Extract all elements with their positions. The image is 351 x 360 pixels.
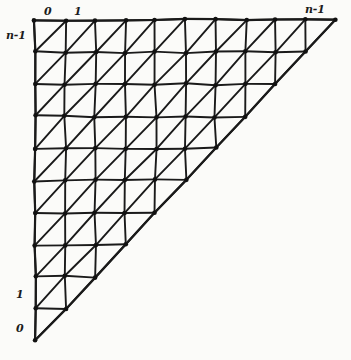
grid-edge [66, 278, 95, 309]
grid-edge [65, 180, 95, 181]
grid-edge [65, 213, 94, 246]
grid-edge [126, 117, 157, 149]
grid-edge [96, 52, 97, 84]
grid-edge [95, 244, 126, 277]
grid-edge [36, 85, 65, 116]
grid-edge [65, 52, 97, 85]
grid-edge [125, 52, 155, 54]
grid-edge [35, 51, 65, 52]
grid-edge [245, 84, 275, 117]
label-left-origin: 0 [16, 323, 23, 334]
grid-vertex [303, 17, 308, 22]
grid-edge [65, 213, 94, 214]
grid-edge [155, 52, 186, 54]
grid-vertex [63, 211, 68, 216]
grid-edge [95, 245, 96, 278]
grid-edge [157, 116, 186, 149]
grid-vertex [64, 18, 69, 23]
grid-edge [65, 245, 96, 276]
grid-edge [96, 213, 125, 245]
grid-edge [155, 180, 187, 213]
grid-edge [155, 19, 185, 52]
grid-edge [34, 148, 66, 181]
grid-edge [214, 117, 216, 147]
grid-edge [245, 20, 246, 51]
grid-vertex [92, 115, 97, 120]
grid-vertex [273, 17, 278, 22]
grid-edge [185, 147, 216, 148]
grid-edge [247, 19, 275, 20]
grid-vertex [32, 243, 37, 248]
grid-edge [155, 149, 185, 180]
grid-edge [186, 51, 216, 83]
grid-vertex [154, 115, 159, 120]
grid-edge [94, 84, 95, 117]
label-top-last: n-1 [305, 4, 325, 15]
grid-edge [245, 19, 275, 51]
grid-edge [35, 116, 64, 149]
label-top-origin: 0 [44, 6, 51, 17]
grid-edge [125, 179, 155, 213]
grid-vertex [93, 146, 98, 151]
grid-edge [66, 117, 94, 148]
grid-edge [96, 20, 126, 52]
grid-edge [94, 117, 95, 148]
grid-edge [36, 115, 65, 116]
grid-edge [66, 52, 97, 53]
grid-vertex [184, 51, 189, 56]
grid-vertex [124, 115, 129, 120]
grid-edge [155, 19, 185, 20]
grid-edge [245, 51, 275, 52]
grid-vertex [62, 113, 67, 118]
grid-vertex [92, 210, 97, 215]
grid-vertex [62, 82, 67, 87]
grid-edge [36, 245, 65, 276]
grid-vertex [123, 82, 128, 87]
grid-edge [65, 148, 95, 180]
grid-vertex [63, 273, 68, 278]
grid-edge [214, 85, 215, 117]
grid-vertex [333, 17, 338, 22]
grid-vertex [243, 49, 248, 54]
grid-vertex [214, 145, 219, 150]
label-top-first: 1 [74, 6, 81, 17]
grid-vertex [32, 179, 37, 184]
grid-vertex [33, 338, 38, 343]
grid-edge [306, 20, 336, 52]
grid-vertex [154, 147, 159, 152]
grid-edge [35, 213, 36, 246]
grid-vertex [123, 51, 128, 56]
grid-edge [36, 308, 66, 309]
grid-edge [275, 19, 276, 52]
grid-edge [245, 52, 275, 84]
grid-vertex [122, 211, 127, 216]
grid-vertex [33, 113, 38, 118]
grid-edge [216, 117, 245, 148]
label-left-first: 1 [16, 289, 23, 300]
grid-edge [216, 20, 247, 51]
grid-edge [125, 52, 155, 84]
grid-vertex [153, 177, 158, 182]
grid-vertex [303, 49, 308, 54]
grid-edge [214, 84, 245, 118]
grid-edge [65, 276, 95, 278]
grid-edge [34, 180, 65, 181]
grid-edge [96, 149, 126, 180]
grid-edge [126, 213, 155, 245]
grid-edge [64, 116, 66, 148]
grid-vertex [243, 115, 248, 120]
grid-vertex [152, 82, 157, 87]
grid-vertex [63, 50, 68, 55]
grid-vertex [183, 114, 188, 119]
grid-vertex [64, 146, 69, 151]
grid-edge [35, 53, 65, 84]
grid-vertex [123, 242, 128, 247]
grid-vertex [243, 82, 248, 87]
grid-edge [36, 276, 65, 277]
grid-vertex [33, 147, 38, 152]
grid-edge [216, 84, 246, 85]
grid-vertex [152, 18, 157, 23]
grid-edge [275, 52, 276, 84]
grid-edge [155, 149, 157, 179]
grid-edge [65, 148, 66, 180]
